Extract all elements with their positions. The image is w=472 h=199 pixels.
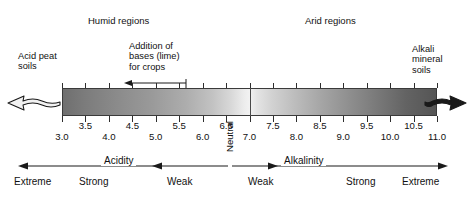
- weak-alkalinity-label: Weak: [248, 176, 273, 187]
- lime-line-3: for crops: [129, 62, 180, 72]
- arid-regions-label: Arid regions: [305, 16, 356, 27]
- tick-bottom-11.0: [437, 116, 438, 122]
- axis-value-7.5: 7.5: [266, 120, 279, 131]
- axis-value-10.0: 10.0: [381, 131, 400, 142]
- tick-top-3.5: [85, 83, 86, 88]
- wavy-arrow-left-icon: [6, 92, 62, 114]
- lime-addition-note: Addition of bases (lime) for crops: [129, 41, 180, 72]
- tick-top-10.5: [414, 83, 415, 88]
- tick-top-5.0: [156, 83, 157, 88]
- tick-bottom-3.0: [62, 116, 63, 122]
- strong-alkalinity-label: Strong: [346, 176, 375, 187]
- axis-value-5.0: 5.0: [149, 131, 162, 142]
- alkali-line-3: soils: [412, 65, 442, 75]
- acid-peat-soils-note: Acid peat soils: [18, 51, 57, 72]
- tick-bottom-4.0: [109, 116, 110, 122]
- acidity-label: Acidity: [101, 155, 136, 166]
- tick-bottom-7.0: [250, 116, 251, 122]
- axis-value-3.5: 3.5: [79, 120, 92, 131]
- axis-value-8.0: 8.0: [290, 131, 303, 142]
- tick-bottom-6.0: [203, 116, 204, 122]
- extreme-acidity-label: Extreme: [14, 176, 51, 187]
- axis-value-9.0: 9.0: [337, 131, 350, 142]
- tick-top-9.0: [343, 83, 344, 88]
- tick-bottom-9.0: [343, 116, 344, 122]
- tick-top-8.0: [296, 83, 297, 88]
- tick-bottom-8.0: [296, 116, 297, 122]
- tick-top-8.5: [320, 83, 321, 88]
- tick-top-7.5: [273, 83, 274, 88]
- axis-value-7.0: 7.0: [243, 131, 256, 142]
- tick-top-6.5: [226, 83, 227, 88]
- humid-regions-label: Humid regions: [88, 16, 149, 27]
- tick-bottom-5.0: [156, 116, 157, 122]
- strong-acidity-label: Strong: [79, 176, 108, 187]
- acid-peat-line-2: soils: [18, 61, 57, 71]
- axis-value-3.0: 3.0: [55, 131, 68, 142]
- tick-top-10.0: [390, 83, 391, 88]
- tick-top-4.0: [109, 83, 110, 88]
- wavy-arrow-right-icon: [424, 92, 468, 114]
- tick-top-5.5: [179, 83, 180, 88]
- axis-value-11.0: 11.0: [428, 131, 446, 142]
- acidity-alkalinity-arrows: [0, 158, 472, 174]
- extreme-alkalinity-label: Extreme: [402, 176, 439, 187]
- tick-top-3.0: [62, 83, 63, 88]
- alkali-line-1: Alkali: [412, 44, 442, 54]
- tick-top-11.0: [437, 83, 438, 88]
- axis-value-4.0: 4.0: [102, 131, 115, 142]
- alkali-mineral-soils-note: Alkali mineral soils: [412, 44, 442, 75]
- neutral-label: Neutral: [224, 121, 235, 152]
- weak-acidity-label: Weak: [167, 176, 192, 187]
- neutral-divider-line: [250, 88, 251, 116]
- axis-value-10.5: 10.5: [404, 120, 423, 131]
- alkalinity-label: Alkalinity: [281, 155, 326, 166]
- axis-value-4.5: 4.5: [126, 120, 139, 131]
- tick-top-7.0: [250, 83, 251, 88]
- tick-bottom-10.0: [390, 116, 391, 122]
- alkali-line-2: mineral: [412, 54, 442, 64]
- tick-top-6.0: [203, 83, 204, 88]
- axis-value-8.5: 8.5: [313, 120, 326, 131]
- lime-line-1: Addition of: [129, 41, 180, 51]
- axis-value-9.5: 9.5: [360, 120, 373, 131]
- tick-top-4.5: [132, 83, 133, 88]
- tick-top-9.5: [367, 83, 368, 88]
- ph-scale-figure: Humid regions Arid regions Acid peat soi…: [0, 0, 472, 199]
- ph-gradient-bar: [62, 88, 437, 116]
- acid-peat-line-1: Acid peat: [18, 51, 57, 61]
- lime-line-2: bases (lime): [129, 51, 180, 61]
- axis-value-5.5: 5.5: [173, 120, 186, 131]
- axis-value-6.0: 6.0: [196, 131, 209, 142]
